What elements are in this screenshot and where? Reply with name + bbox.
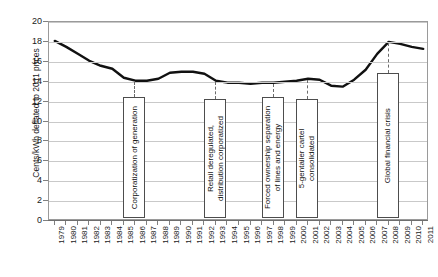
x-tick-label-1987: 1987 bbox=[149, 226, 158, 266]
annotation-leader-forced-ownership-separation bbox=[273, 84, 274, 97]
annotation-box-corporatization-of-generation[interactable]: Corporatization of generation bbox=[123, 97, 145, 218]
x-tick-mark bbox=[284, 221, 285, 225]
x-tick-mark bbox=[123, 221, 124, 225]
x-tick-mark bbox=[180, 221, 181, 225]
y-tick-mark bbox=[43, 121, 48, 122]
gridline bbox=[49, 201, 427, 202]
annotation-box-retail-deregulated[interactable]: Retail deregulated,distribution corporat… bbox=[204, 99, 226, 218]
annotation-label-forced-ownership-separation: Forced ownership separationof lines and … bbox=[263, 106, 282, 209]
annotation-label-gentailer-cartel-consolidated: 5-gentailer cartelconsolidated bbox=[298, 129, 317, 189]
y-tick-mark bbox=[43, 180, 48, 181]
annotation-box-forced-ownership-separation[interactable]: Forced ownership separationof lines and … bbox=[262, 97, 284, 218]
gridline bbox=[49, 82, 427, 83]
x-tick-mark bbox=[411, 221, 412, 225]
x-tick-label-2001: 2001 bbox=[311, 226, 320, 266]
x-tick-mark bbox=[261, 221, 262, 225]
x-tick-label-1991: 1991 bbox=[195, 226, 204, 266]
y-tick-mark bbox=[43, 41, 48, 42]
annotation-label-global-financial-crisis: Global financial crisis bbox=[383, 108, 393, 183]
y-tick-label: 0 bbox=[16, 215, 42, 225]
x-tick-label-1981: 1981 bbox=[80, 226, 89, 266]
gridline bbox=[49, 22, 427, 23]
annotation-box-global-financial-crisis[interactable]: Global financial crisis bbox=[377, 73, 399, 218]
x-tick-mark bbox=[146, 221, 147, 225]
gridline bbox=[49, 62, 427, 63]
x-tick-mark bbox=[54, 221, 55, 225]
x-tick-mark bbox=[319, 221, 320, 225]
annotation-label-corporatization-of-generation: Corporatization of generation bbox=[130, 106, 140, 209]
gridline bbox=[49, 181, 427, 182]
y-tick-label: 12 bbox=[16, 96, 42, 106]
x-tick-label-2007: 2007 bbox=[380, 226, 389, 266]
y-tick-mark bbox=[43, 200, 48, 201]
annotation-leader-corporatization-of-generation bbox=[134, 82, 135, 97]
y-tick-mark bbox=[43, 21, 48, 22]
y-tick-mark bbox=[43, 101, 48, 102]
x-tick-label-1988: 1988 bbox=[161, 226, 170, 266]
x-tick-mark bbox=[365, 221, 366, 225]
x-tick-mark bbox=[169, 221, 170, 225]
plot-area bbox=[48, 21, 428, 220]
gridline bbox=[49, 42, 427, 43]
y-tick-mark bbox=[43, 220, 48, 221]
x-tick-mark bbox=[388, 221, 389, 225]
x-tick-mark bbox=[376, 221, 377, 225]
annotation-label-retail-deregulated: Retail deregulated,distribution corporat… bbox=[205, 116, 224, 201]
x-tick-label-1983: 1983 bbox=[103, 226, 112, 266]
x-tick-mark bbox=[77, 221, 78, 225]
x-tick-mark bbox=[238, 221, 239, 225]
x-tick-label-2002: 2002 bbox=[322, 226, 331, 266]
x-tick-label-1982: 1982 bbox=[92, 226, 101, 266]
chart-container: Cents/kWh deflated to 2011 prices 024681… bbox=[0, 0, 438, 277]
x-tick-label-1999: 1999 bbox=[288, 226, 297, 266]
annotation-leader-global-financial-crisis bbox=[388, 43, 389, 73]
gridline bbox=[49, 161, 427, 162]
y-tick-mark bbox=[43, 61, 48, 62]
x-tick-label-1992: 1992 bbox=[207, 226, 216, 266]
y-axis-labels: 02468101214161820 bbox=[14, 0, 42, 277]
x-tick-mark bbox=[203, 221, 204, 225]
y-tick-mark bbox=[43, 81, 48, 82]
y-tick-mark bbox=[43, 140, 48, 141]
x-tick-label-1980: 1980 bbox=[69, 226, 78, 266]
x-tick-mark bbox=[330, 221, 331, 225]
x-tick-mark bbox=[353, 221, 354, 225]
y-tick-mark bbox=[43, 160, 48, 161]
y-tick-label: 16 bbox=[16, 56, 42, 66]
gridline bbox=[49, 122, 427, 123]
x-tick-label-2010: 2010 bbox=[414, 226, 423, 266]
x-tick-label-1994: 1994 bbox=[230, 226, 239, 266]
x-tick-mark bbox=[157, 221, 158, 225]
x-tick-mark bbox=[192, 221, 193, 225]
x-tick-mark bbox=[342, 221, 343, 225]
x-tick-mark bbox=[399, 221, 400, 225]
x-tick-label-2008: 2008 bbox=[391, 226, 400, 266]
x-tick-label-2009: 2009 bbox=[403, 226, 412, 266]
x-tick-label-1990: 1990 bbox=[184, 226, 193, 266]
x-tick-label-1993: 1993 bbox=[218, 226, 227, 266]
y-tick-label: 20 bbox=[16, 16, 42, 26]
x-tick-mark bbox=[273, 221, 274, 225]
x-tick-label-2000: 2000 bbox=[299, 226, 308, 266]
y-tick-label: 2 bbox=[16, 195, 42, 205]
x-tick-label-1986: 1986 bbox=[138, 226, 147, 266]
x-tick-mark bbox=[65, 221, 66, 225]
x-tick-label-2006: 2006 bbox=[368, 226, 377, 266]
y-tick-label: 6 bbox=[16, 155, 42, 165]
x-tick-mark bbox=[422, 221, 423, 225]
x-tick-mark bbox=[134, 221, 135, 225]
x-tick-label-1995: 1995 bbox=[242, 226, 251, 266]
y-tick-label: 4 bbox=[16, 175, 42, 185]
x-tick-label-2004: 2004 bbox=[345, 226, 354, 266]
x-tick-mark bbox=[296, 221, 297, 225]
x-tick-mark bbox=[100, 221, 101, 225]
y-tick-label: 10 bbox=[16, 116, 42, 126]
x-tick-label-1996: 1996 bbox=[253, 226, 262, 266]
y-tick-label: 8 bbox=[16, 135, 42, 145]
x-tick-label-1984: 1984 bbox=[115, 226, 124, 266]
gridline bbox=[49, 141, 427, 142]
x-tick-label-1985: 1985 bbox=[126, 226, 135, 266]
annotation-box-gentailer-cartel-consolidated[interactable]: 5-gentailer cartelconsolidated bbox=[296, 99, 318, 218]
y-tick-label: 18 bbox=[16, 36, 42, 46]
x-tick-mark bbox=[250, 221, 251, 225]
